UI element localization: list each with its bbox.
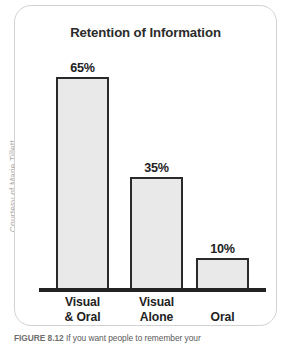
bar-group-visual-alone: 35% [130, 177, 183, 290]
bar-group-visual-and-oral: 65% [56, 77, 109, 290]
figure-frame: Retention of Information 65% 35% 10% Vis… [14, 5, 277, 326]
bar-value-label: 65% [42, 61, 123, 75]
category-label-line: Visual [46, 295, 119, 310]
figure-caption-text: If you want people to remember your [66, 333, 201, 343]
figure-caption-label: FIGURE 8.12 [14, 333, 64, 343]
category-label-line: Visual [120, 295, 193, 310]
bar-group-oral: 10% [196, 258, 249, 290]
bar-visual-alone[interactable] [130, 177, 183, 290]
category-label-line: Alone [120, 310, 193, 325]
category-label-visual-alone: Visual Alone [120, 295, 193, 325]
bar-value-label: 35% [116, 161, 197, 175]
figure-caption: FIGURE 8.12 If you want people to rememb… [14, 333, 289, 343]
bar-visual-and-oral[interactable] [56, 77, 109, 290]
x-axis-baseline [39, 288, 266, 292]
bar-value-label: 10% [182, 242, 263, 256]
category-label-line: & Oral [46, 310, 119, 325]
category-label-line: Oral [186, 310, 259, 325]
bar-chart-plot-area: 65% 35% 10% Visual & Oral Visual Alone O… [15, 6, 277, 326]
bar-oral[interactable] [196, 258, 249, 290]
category-label-oral: Oral [186, 310, 259, 325]
category-label-visual-and-oral: Visual & Oral [46, 295, 119, 325]
